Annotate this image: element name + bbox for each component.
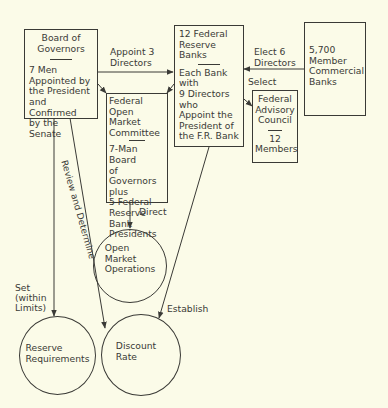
federal-reserve-structure-diagram: Board of Governors 7 Men Appointed by th… — [0, 0, 388, 408]
divider — [129, 140, 145, 141]
open-market-operations-label: Open Market Operations — [105, 243, 156, 275]
board-title: Board of Governors — [29, 33, 93, 54]
banks-title: 12 Federal Reserve Banks — [179, 29, 239, 61]
discount-rate-circle: Discount Rate — [101, 314, 181, 396]
member-commercial-banks-box: 5,700 Member Commercial Banks — [304, 22, 366, 116]
board-of-governors-box: Board of Governors 7 Men Appointed by th… — [24, 29, 98, 119]
discount-rate-label: Discount Rate — [116, 341, 156, 362]
open-market-operations-circle: Open Market Operations — [93, 229, 167, 303]
divider — [198, 64, 220, 65]
reserve-requirements-circle: Reserve Requirements — [19, 316, 96, 395]
banks-to-fomc-arrow — [167, 84, 174, 93]
divider — [268, 130, 282, 131]
appoint-directors-label: Appoint 3 Directors — [110, 47, 154, 68]
council-title: Federal Advisory Council — [255, 94, 295, 126]
board-to-fomc-arrow — [98, 84, 106, 93]
banks-body: Each Bank with 9 Directors who Appoint t… — [179, 68, 239, 142]
fomc-box: Federal Open Market Committee 7-Man Boar… — [106, 93, 168, 203]
federal-advisory-council-box: Federal Advisory Council 12 Members — [252, 90, 298, 163]
reserve-requirements-label: Reserve Requirements — [26, 343, 90, 364]
council-body: 12 Members — [255, 134, 295, 155]
direct-label: Direct — [139, 207, 167, 218]
member-banks-body: 5,700 Member Commercial Banks — [309, 45, 361, 87]
federal-reserve-banks-box: 12 Federal Reserve Banks Each Bank with … — [174, 25, 244, 147]
fomc-title: Federal Open Market Committee — [109, 96, 165, 138]
select-label: Select — [248, 77, 276, 88]
board-body: 7 Men Appointed by the President and Con… — [29, 65, 93, 139]
establish-label: Establish — [167, 304, 208, 315]
fomc-body: 7-Man Board of Governors plus 5 Federal … — [109, 144, 165, 239]
divider — [50, 59, 72, 60]
set-within-limits-label: Set (within Limits) — [15, 283, 46, 313]
elect-directors-label: Elect 6 Directors — [254, 47, 296, 68]
